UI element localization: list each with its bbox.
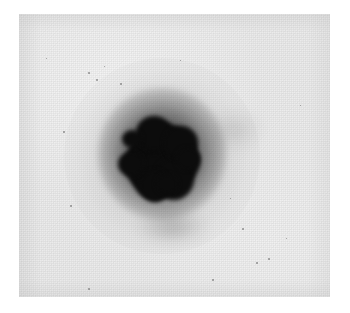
- dust-speck: [104, 66, 105, 67]
- dust-speck: [242, 228, 244, 230]
- core-lobe: [176, 148, 200, 170]
- dust-speck: [230, 198, 231, 199]
- dust-speck: [180, 60, 181, 61]
- dust-speck: [256, 262, 258, 264]
- dust-speck: [96, 79, 98, 81]
- photographic-plate: [19, 14, 330, 297]
- dust-speck: [120, 83, 122, 85]
- dust-speck: [268, 258, 270, 260]
- core-lobe: [156, 174, 178, 194]
- image-canvas: [0, 0, 350, 313]
- dust-speck: [46, 58, 47, 59]
- dust-speck: [88, 72, 90, 74]
- dust-speck: [300, 105, 301, 106]
- dust-speck: [286, 238, 287, 239]
- dust-speck: [70, 205, 72, 207]
- dust-speck: [212, 279, 214, 281]
- core-lobe: [118, 152, 144, 176]
- dust-speck: [63, 131, 65, 133]
- core-lobe: [122, 130, 142, 148]
- dust-speck: [88, 288, 90, 290]
